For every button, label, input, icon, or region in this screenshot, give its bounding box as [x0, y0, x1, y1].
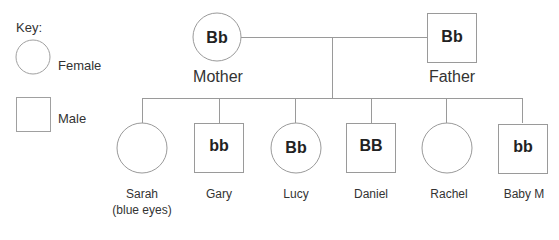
child-label: Rachel — [430, 186, 467, 202]
child-label: Baby M — [504, 186, 545, 202]
father-label: Father — [429, 68, 475, 86]
child-genotype: bb — [513, 138, 533, 156]
mother-label: Mother — [193, 68, 243, 86]
key-female-label: Female — [58, 58, 101, 73]
key-title: Key: — [16, 20, 42, 35]
child-rachel-circle — [422, 123, 472, 173]
father-genotype: Bb — [441, 28, 462, 46]
child-label: Lucy — [283, 186, 308, 202]
child-genotype: Bb — [285, 139, 306, 157]
mother-genotype: Bb — [206, 29, 227, 47]
key-male-label: Male — [58, 111, 86, 126]
child-sarah-circle — [117, 123, 167, 173]
child-genotype: BB — [359, 137, 382, 155]
key-female-circle — [16, 40, 50, 74]
child-label: Sarah (blue eyes) — [112, 186, 171, 218]
key-male-square — [17, 98, 51, 132]
child-label: Gary — [206, 186, 232, 202]
child-label: Daniel — [354, 186, 388, 202]
child-genotype: bb — [209, 137, 229, 155]
